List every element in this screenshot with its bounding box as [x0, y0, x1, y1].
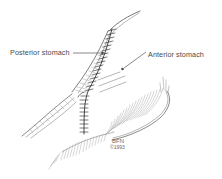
- leader-dot-anterior: [121, 68, 124, 71]
- illustration-canvas: Posterior stomach Anterior stomach BFN ©…: [0, 0, 222, 179]
- medical-illustration-figure: Posterior stomach Anterior stomach BFN ©…: [0, 0, 222, 179]
- label-posterior-stomach: Posterior stomach: [10, 48, 70, 57]
- leader-dot-posterior: [101, 52, 104, 55]
- artist-signature: BFN ©1993: [110, 138, 125, 150]
- label-anterior-stomach: Anterior stomach: [148, 50, 204, 59]
- figure-background: [0, 0, 222, 179]
- signature-year: ©1993: [110, 144, 125, 150]
